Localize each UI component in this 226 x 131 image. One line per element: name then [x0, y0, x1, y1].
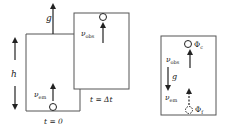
right-figure: Φc νobs g νem Φf [161, 36, 216, 115]
height-label: h [11, 69, 17, 79]
equivalence-principle-diagram: g h νem νobs t = 0 t = Δt Φc νobs [0, 0, 226, 131]
box-t-delta [74, 13, 129, 89]
time-later-label: t = Δt [90, 95, 113, 104]
potential-bottom-label: Φf [195, 105, 204, 115]
emitter-label: νem [165, 93, 178, 103]
emitter-label: νem [34, 90, 47, 100]
gravity-label: g [46, 13, 52, 23]
gravity-label: g [172, 72, 177, 81]
potential-top-circle-icon [185, 41, 192, 48]
observer-circle-icon [100, 14, 107, 21]
observer-label: νobs [166, 55, 180, 65]
time-start-label: t = 0 [44, 117, 63, 126]
left-figure: g h νem νobs t = 0 t = Δt [11, 6, 129, 126]
emitter-circle-icon [50, 104, 57, 111]
potential-bottom-circle-icon [186, 107, 193, 114]
observer-label: νobs [81, 29, 95, 39]
potential-top-label: Φc [194, 40, 203, 50]
